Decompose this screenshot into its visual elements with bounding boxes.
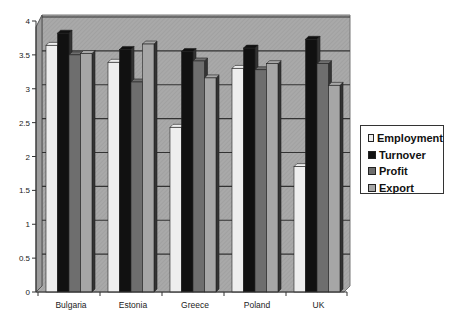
legend-swatch-profit [368,167,376,175]
x-tick-label: UK [313,300,325,310]
y-tick-label: 1.5 [19,186,31,195]
y-tick-label: 0.5 [19,254,31,263]
y-tick-label: 1 [26,220,31,229]
legend-label: Profit [379,165,408,177]
legend-item-employment: Employment [368,130,443,147]
bar-export-estonia [143,41,158,292]
legend-swatch-employment [368,134,374,142]
legend-swatch-export [368,184,376,192]
bar-export-uk [329,82,344,292]
x-tick-label: Estonia [119,300,148,310]
y-tick-label: 0 [26,288,31,297]
legend: Employment Turnover Profit Export [360,125,444,194]
legend-swatch-turnover [368,151,376,159]
legend-label: Export [379,182,414,194]
legend-label: Turnover [379,149,426,161]
y-axis: 00.511.522.533.54 [19,17,36,297]
legend-item-turnover: Turnover [368,147,443,164]
y-tick-label: 4 [26,17,31,26]
legend-label: Employment [377,132,443,144]
bar-export-poland [267,61,282,292]
legend-item-export: Export [368,180,443,197]
y-tick-label: 3.5 [19,51,31,60]
y-tick-label: 3 [26,85,31,94]
y-tick-label: 2.5 [19,119,31,128]
x-tick-label: Greece [181,300,209,310]
y-tick-label: 2 [26,153,31,162]
bar-export-greece [205,75,220,292]
bar-export-bulgaria [81,51,96,292]
x-tick-label: Poland [244,300,271,310]
x-tick-label: Bulgaria [55,300,86,310]
legend-item-profit: Profit [368,163,443,180]
x-axis: BulgariaEstoniaGreecePolandUK [36,292,347,310]
